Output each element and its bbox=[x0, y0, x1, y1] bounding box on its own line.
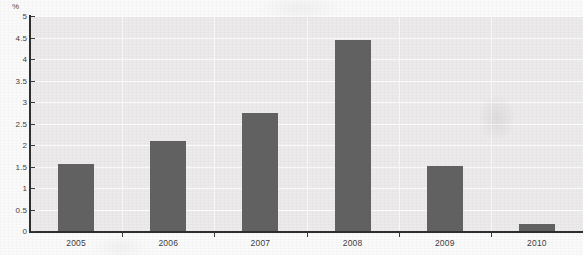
y-axis-tick-mark bbox=[31, 210, 35, 211]
x-axis-tick-label: 2006 bbox=[122, 238, 214, 248]
category-separator bbox=[491, 16, 492, 231]
x-axis-tick-mark bbox=[491, 233, 492, 237]
y-axis-tick-label: 2 bbox=[1, 141, 27, 150]
bar bbox=[242, 113, 278, 231]
bar bbox=[335, 40, 371, 231]
y-axis-tick-mark bbox=[31, 231, 35, 232]
category-separator bbox=[307, 16, 308, 231]
y-axis-tick-label: 1.5 bbox=[1, 162, 27, 171]
bar-chart: % 00.511.522.533.544.55 2005200620072008… bbox=[0, 0, 583, 255]
y-axis-tick-mark bbox=[31, 81, 35, 82]
y-axis-tick-label: 5 bbox=[1, 12, 27, 21]
y-axis-tick-label: 1 bbox=[1, 184, 27, 193]
bar bbox=[519, 224, 555, 231]
y-axis-tick-mark bbox=[31, 145, 35, 146]
x-axis-tick-mark bbox=[399, 233, 400, 237]
y-axis-tick-mark bbox=[31, 38, 35, 39]
y-axis-tick-label: 2.5 bbox=[1, 119, 27, 128]
x-axis-tick-mark bbox=[307, 233, 308, 237]
category-separator bbox=[399, 16, 400, 231]
category-separator bbox=[214, 16, 215, 231]
x-axis-tick-label: 2009 bbox=[399, 238, 491, 248]
y-axis-tick-label: 0 bbox=[1, 227, 27, 236]
bar bbox=[58, 164, 94, 232]
x-axis-tick-label: 2008 bbox=[307, 238, 399, 248]
y-axis-tick-mark bbox=[31, 188, 35, 189]
y-axis-tick-label: 4 bbox=[1, 55, 27, 64]
x-axis-tick-label: 2005 bbox=[30, 238, 122, 248]
category-separator bbox=[122, 16, 123, 231]
x-axis-tick-mark bbox=[214, 233, 215, 237]
x-axis-tick-mark bbox=[122, 233, 123, 237]
y-axis-tick-label: 3.5 bbox=[1, 76, 27, 85]
y-axis-tick-mark bbox=[31, 167, 35, 168]
x-axis-tick-label: 2007 bbox=[214, 238, 306, 248]
y-axis-tick-mark bbox=[31, 16, 35, 17]
y-axis-tick-label: 0.5 bbox=[1, 205, 27, 214]
y-axis-tick-mark bbox=[31, 59, 35, 60]
y-axis-tick-label: 4.5 bbox=[1, 33, 27, 42]
y-axis-tick-labels: 00.511.522.533.544.55 bbox=[0, 0, 27, 255]
bar bbox=[150, 141, 186, 231]
bar bbox=[427, 166, 463, 231]
y-axis-tick-mark bbox=[31, 124, 35, 125]
x-axis-tick-label: 2010 bbox=[491, 238, 583, 248]
y-axis-tick-label: 3 bbox=[1, 98, 27, 107]
plot-area bbox=[30, 16, 583, 231]
y-axis-tick-mark bbox=[31, 102, 35, 103]
